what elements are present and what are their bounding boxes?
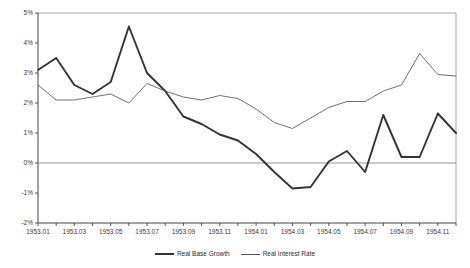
legend-entry[interactable]: Real Interest Rate [241,251,315,258]
y-axis-tick-label: 1% [2,129,33,136]
y-axis-tick-label: 2% [2,99,33,106]
series-line-1 [38,54,456,129]
y-axis-tick-label: 4% [2,39,33,46]
x-axis-tick-label: 1954.11 [416,228,460,235]
series-line-0 [38,27,456,189]
y-axis-tick-label: 5% [2,9,33,16]
legend-line-swatch [155,253,174,255]
y-axis-tick-label: -2% [2,219,33,226]
legend-label: Real Interest Rate [263,251,315,258]
y-axis-tick-label: 3% [2,69,33,76]
y-axis-tick-label: -1% [2,189,33,196]
y-axis-tick-label: 0% [2,159,33,166]
chart-container: Real Base GrowthReal Interest Rate 5%4%3… [0,0,470,268]
chart-legend: Real Base GrowthReal Interest Rate [0,247,470,261]
legend-entry[interactable]: Real Base Growth [155,251,230,258]
legend-label: Real Base Growth [177,251,230,258]
legend-line-swatch [241,254,260,255]
